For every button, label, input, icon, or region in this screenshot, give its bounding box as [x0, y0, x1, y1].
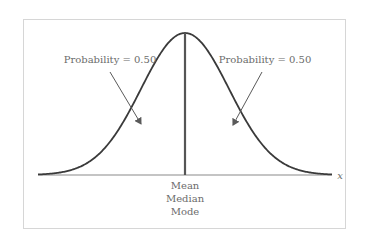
normal-distribution-chart: Probability = 0.50 Probability = 0.50 x …	[0, 0, 372, 239]
mode-label: Mode	[171, 206, 200, 217]
right-arrow-icon	[233, 72, 262, 125]
median-label: Median	[166, 193, 205, 204]
left-probability-label: Probability = 0.50	[64, 54, 157, 65]
right-probability-label: Probability = 0.50	[219, 54, 312, 65]
mean-label: Mean	[171, 180, 200, 191]
x-axis-label: x	[337, 170, 343, 181]
